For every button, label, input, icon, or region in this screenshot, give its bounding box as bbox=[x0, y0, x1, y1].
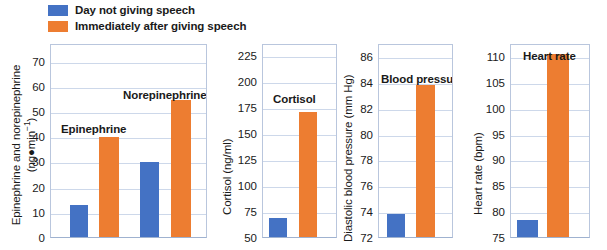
ytick-label: 75 bbox=[220, 206, 257, 218]
ytick-label: 86 bbox=[336, 51, 373, 63]
bar-blue bbox=[387, 214, 405, 238]
ytick-label: 74 bbox=[336, 206, 373, 218]
ytick-label: 150 bbox=[220, 128, 257, 140]
panel-cortisol: Cortisol (ng/ml) Cortisol 50751001251501… bbox=[210, 0, 330, 250]
gridline bbox=[263, 109, 336, 110]
bar-blue bbox=[140, 162, 159, 238]
ytick-label: 80 bbox=[336, 129, 373, 141]
stress-response-figure: Day not giving speech Immediately after … bbox=[0, 0, 607, 250]
ytick-label: 175 bbox=[220, 102, 257, 114]
bar-blue bbox=[517, 220, 538, 238]
panel-heart-rate: Heart rate (bpm) Heart rate 758085909510… bbox=[460, 0, 607, 250]
panel-blood-pressure: Diastolic blood pressure (mm Hg) Blood p… bbox=[330, 0, 460, 250]
bar-orange bbox=[547, 54, 569, 238]
plot-area-heart-rate: Heart rate bbox=[510, 44, 590, 238]
bar-blue bbox=[70, 205, 88, 238]
ytick-label: 40 bbox=[8, 131, 45, 143]
ytick-label: 76 bbox=[336, 180, 373, 192]
bar-blue bbox=[269, 218, 287, 238]
ytick-label: 85 bbox=[468, 180, 505, 192]
ytick-label: 110 bbox=[468, 51, 505, 63]
ytick-label: 78 bbox=[336, 154, 373, 166]
gridline bbox=[379, 58, 452, 59]
bar-orange bbox=[416, 85, 435, 238]
gridline bbox=[51, 63, 206, 64]
bar-orange bbox=[99, 137, 119, 238]
series-annotation: Blood pressure bbox=[381, 73, 453, 85]
bar-orange bbox=[171, 100, 191, 238]
ytick-label: 75 bbox=[468, 232, 505, 244]
ytick-label: 50 bbox=[220, 232, 257, 244]
bar-orange bbox=[299, 112, 317, 238]
ytick-label: 200 bbox=[220, 76, 257, 88]
ytick-label: 30 bbox=[8, 156, 45, 168]
ytick-label: 80 bbox=[468, 206, 505, 218]
axis-title-heart-rate: Heart rate (bpm) bbox=[472, 132, 484, 215]
ytick-label: 100 bbox=[220, 180, 257, 192]
panel-catecholamines: Epinephrine and norepinephrine (ng●min−1… bbox=[0, 0, 210, 250]
ytick-label: 60 bbox=[8, 81, 45, 93]
ytick-label: 72 bbox=[336, 232, 373, 244]
gridline bbox=[263, 57, 336, 58]
ytick-label: 70 bbox=[8, 56, 45, 68]
ytick-label: 50 bbox=[8, 106, 45, 118]
ytick-label: 95 bbox=[468, 129, 505, 141]
ytick-label: 100 bbox=[468, 103, 505, 115]
ytick-label: 10 bbox=[8, 207, 45, 219]
ytick-label: 125 bbox=[220, 154, 257, 166]
series-annotation: Heart rate bbox=[523, 50, 576, 62]
plot-area-cortisol: Cortisol bbox=[262, 44, 337, 238]
plot-area-blood-pressure: Blood pressure bbox=[378, 44, 453, 238]
ytick-label: 0 bbox=[8, 232, 45, 244]
series-annotation: Epinephrine bbox=[61, 123, 126, 135]
ytick-label: 105 bbox=[468, 77, 505, 89]
ytick-label: 82 bbox=[336, 103, 373, 115]
gridline bbox=[263, 83, 336, 84]
axis-title-cortisol: Cortisol (ng/ml) bbox=[221, 139, 233, 215]
ytick-label: 90 bbox=[468, 154, 505, 166]
ytick-label: 84 bbox=[336, 77, 373, 89]
series-annotation: Norepinephrine bbox=[123, 89, 207, 101]
plot-area-catecholamines: EpinephrineNorepinephrine bbox=[50, 44, 207, 238]
ytick-label: 20 bbox=[8, 182, 45, 194]
ytick-label: 225 bbox=[220, 50, 257, 62]
series-annotation: Cortisol bbox=[273, 93, 316, 105]
